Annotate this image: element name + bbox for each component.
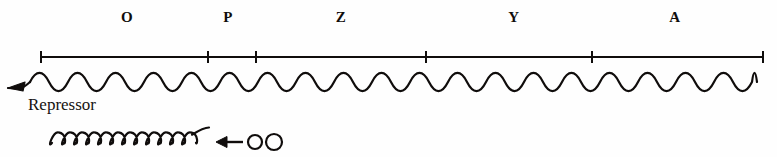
figure-vector-layer bbox=[0, 0, 777, 157]
wavy-dna-strand bbox=[8, 73, 757, 91]
inducer-binding-arrow-head bbox=[216, 137, 227, 148]
repressor-coil-path bbox=[50, 132, 197, 144]
inducer-circle bbox=[248, 135, 262, 149]
repressor-coil-tail bbox=[192, 128, 209, 135]
inducer-circle bbox=[266, 134, 282, 150]
gene-map-figure: O P Z Y A Repressor bbox=[0, 0, 777, 157]
repressor-protein-coil bbox=[50, 128, 282, 151]
dna-wave-path bbox=[30, 73, 757, 91]
gene-map-ruler bbox=[41, 51, 763, 63]
strand-direction-arrow bbox=[8, 82, 25, 91]
